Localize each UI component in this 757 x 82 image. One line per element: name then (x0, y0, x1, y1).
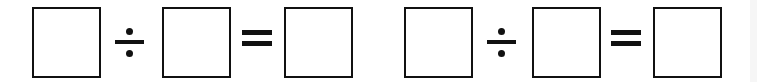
divide-icon (487, 28, 516, 55)
page-edge (750, 0, 757, 82)
divide-dot-top (498, 28, 505, 35)
equation1-result-box[interactable] (284, 7, 353, 78)
divide-bar (115, 40, 144, 44)
equals-icon (611, 30, 641, 46)
equation2-result-box[interactable] (653, 7, 722, 78)
equation1-operand2-box[interactable] (162, 7, 231, 78)
equation2-operand2-box[interactable] (532, 7, 601, 78)
equals-bar-bottom (611, 41, 641, 46)
divide-dot-bottom (498, 50, 505, 57)
divide-bar (487, 40, 516, 44)
divide-dot-top (126, 28, 133, 35)
equals-icon (242, 30, 272, 46)
equals-bar-top (242, 30, 272, 35)
equals-bar-top (611, 30, 641, 35)
equals-bar-bottom (242, 41, 272, 46)
equation1-operand1-box[interactable] (32, 7, 101, 78)
divide-icon (115, 28, 144, 55)
equation2-operand1-box[interactable] (404, 7, 473, 78)
divide-dot-bottom (126, 50, 133, 57)
